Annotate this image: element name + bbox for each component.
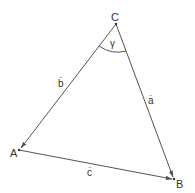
vector-a-arrow-icon: → <box>148 91 153 97</box>
vector-c-line <box>19 150 172 179</box>
vector-triangle-diagram: C A B γ b → a → c → <box>0 0 195 193</box>
vertex-c-label: C <box>111 11 119 23</box>
vector-b-line <box>21 24 116 148</box>
vector-a-line <box>116 24 173 177</box>
vertex-b-label: B <box>176 178 183 190</box>
angle-gamma-label: γ <box>110 38 115 49</box>
vector-b-label: b <box>58 78 64 89</box>
vertex-c-dot <box>115 23 117 25</box>
vector-b-arrow-icon: → <box>58 73 63 79</box>
vertex-b-dot <box>173 178 175 180</box>
vector-c-arrow-icon: → <box>87 163 92 169</box>
vertex-a-label: A <box>10 147 18 159</box>
vertex-a-dot <box>18 149 20 151</box>
